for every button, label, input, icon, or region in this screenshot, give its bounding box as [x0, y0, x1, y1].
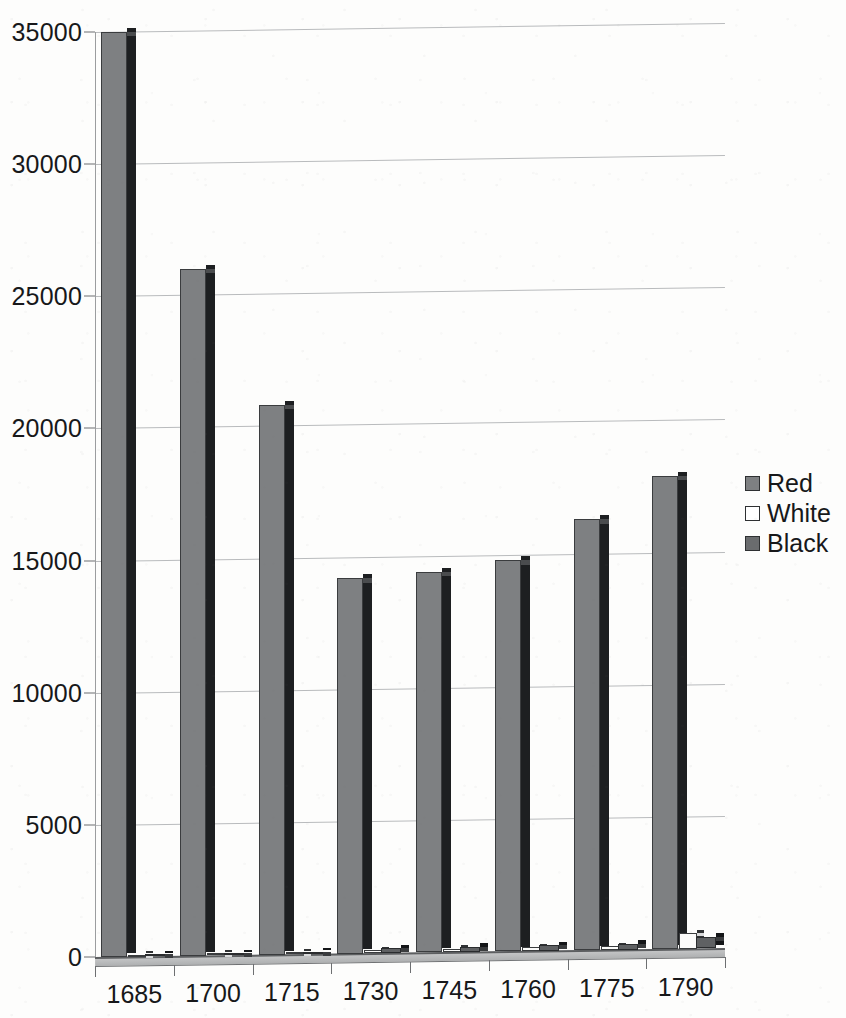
y-axis-tick-label: 35000: [11, 18, 82, 47]
x-axis-tick-mark: [568, 959, 569, 970]
y-axis-tick-label: 10000: [11, 678, 82, 707]
bar-face: [364, 950, 382, 953]
x-axis-tick-mark: [410, 962, 411, 973]
bar-red-1685: [101, 32, 136, 957]
bar-black-1790: [696, 937, 724, 949]
y-axis-tick-mark: [84, 32, 95, 33]
x-axis-tick-label: 1790: [658, 973, 714, 1002]
bar-red-1790: [652, 476, 687, 949]
legend-swatch-black: [745, 536, 760, 551]
y-axis-tick-label: 5000: [26, 810, 82, 839]
x-axis-tick-label: 1685: [107, 980, 163, 1009]
bar-face: [696, 937, 716, 949]
bar-black-1685: [145, 954, 173, 956]
bar-side: [600, 515, 609, 946]
bar-top: [521, 560, 530, 565]
x-axis-tick-label: 1760: [500, 975, 556, 1004]
x-axis-tick-label: 1745: [422, 976, 478, 1005]
bar-face: [207, 953, 225, 955]
bar-face: [460, 947, 480, 952]
bar-face: [224, 953, 244, 955]
y-axis: 05000100001500020000250003000035000: [0, 0, 82, 1018]
x-axis-tick-mark: [725, 957, 726, 968]
bar-face: [443, 949, 461, 952]
legend-swatch-red: [745, 476, 760, 491]
bar-black-1700: [224, 953, 252, 955]
y-axis-tick-mark: [84, 560, 95, 561]
bar-side: [285, 401, 294, 951]
x-axis-tick-mark: [489, 960, 490, 971]
legend-label: Red: [767, 471, 813, 496]
legend-item-black: Black: [745, 528, 845, 558]
bar-top: [285, 405, 294, 410]
y-axis-tick-label: 15000: [11, 546, 82, 575]
y-axis-line: [95, 32, 96, 957]
bar-black-1715: [303, 952, 331, 954]
y-axis-tick-mark: [84, 164, 95, 165]
y-axis-tick-mark: [84, 296, 95, 297]
bar-side: [323, 948, 331, 950]
bar-top: [323, 952, 331, 956]
bar-side: [244, 950, 252, 952]
bar-side: [127, 28, 136, 953]
bar-top: [600, 519, 609, 524]
y-axis-tick-mark: [84, 957, 95, 958]
x-axis-tick-label: 1775: [579, 974, 635, 1003]
bar-top: [206, 269, 215, 274]
bar-side: [206, 265, 215, 952]
bar-face: [618, 944, 638, 950]
bar-face: [679, 933, 697, 949]
legend-item-white: White: [745, 498, 845, 528]
gridline: [95, 155, 725, 165]
bar-red-1745: [416, 572, 451, 953]
bar-red-1760: [495, 560, 530, 951]
x-axis-tick-mark: [331, 963, 332, 974]
bar-top: [716, 937, 724, 941]
legend: RedWhiteBlack: [745, 468, 845, 558]
bar-top: [442, 572, 451, 577]
y-axis-tick-mark: [84, 692, 95, 693]
bar-red-1730: [337, 578, 372, 953]
bar-top: [638, 944, 646, 948]
bar-face: [101, 32, 127, 957]
x-axis-tick-mark: [174, 965, 175, 976]
bar-side: [521, 556, 530, 947]
x-axis-tick-mark: [95, 966, 96, 977]
bar-red-1775: [574, 519, 609, 950]
bar-top: [678, 476, 687, 481]
bar-black-1745: [460, 947, 488, 952]
bar-top: [480, 947, 488, 951]
bar-face: [381, 948, 401, 953]
bar-black-1760: [539, 945, 567, 950]
y-axis-tick-mark: [84, 428, 95, 429]
bar-side: [442, 568, 451, 949]
bar-top: [559, 945, 567, 949]
bar-face: [574, 519, 600, 950]
y-axis-tick-label: 0: [68, 943, 82, 972]
bar-side: [678, 472, 687, 945]
x-axis-tick-label: 1730: [343, 977, 399, 1006]
bar-face: [495, 560, 521, 951]
bar-side: [165, 951, 173, 953]
bar-face: [128, 955, 146, 957]
bar-face: [286, 952, 304, 954]
bar-face: [601, 946, 619, 950]
y-axis-tick-label: 20000: [11, 414, 82, 443]
bar-top: [244, 953, 252, 957]
bar-top: [401, 948, 409, 952]
y-axis-tick-label: 30000: [11, 150, 82, 179]
bar-chart: 05000100001500020000250003000035000 1685…: [0, 0, 846, 1018]
bar-face: [416, 572, 442, 953]
bar-face: [145, 954, 165, 956]
bar-top: [127, 32, 136, 37]
bar-face: [337, 578, 363, 953]
bar-side: [363, 574, 372, 949]
gridline: [95, 23, 725, 33]
bar-top: [165, 954, 173, 958]
bar-red-1715: [259, 405, 294, 955]
x-axis-tick-label: 1700: [185, 979, 241, 1008]
legend-swatch-white: [745, 506, 760, 521]
bar-top: [363, 578, 372, 583]
legend-label: Black: [767, 531, 828, 556]
x-axis-tick-mark: [253, 964, 254, 975]
